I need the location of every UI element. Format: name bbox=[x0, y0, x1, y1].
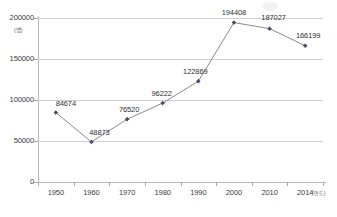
data-series bbox=[0, 0, 337, 217]
series-line bbox=[56, 23, 305, 142]
data-point-marker bbox=[196, 79, 201, 84]
data-point-label: 48873 bbox=[89, 129, 109, 137]
data-point-marker bbox=[303, 43, 308, 48]
data-point-label: 122869 bbox=[183, 68, 207, 76]
data-point-label: 96222 bbox=[152, 90, 172, 98]
line-chart: (명) 050000100000150000200000 19501960197… bbox=[0, 0, 337, 217]
data-point-label: 166199 bbox=[296, 32, 320, 40]
data-point-label: 187027 bbox=[261, 14, 285, 22]
data-point-marker bbox=[232, 20, 237, 25]
data-point-label: 76520 bbox=[119, 106, 139, 114]
data-point-marker bbox=[160, 101, 165, 106]
data-point-marker bbox=[267, 26, 272, 31]
data-point-label: 84674 bbox=[56, 100, 76, 108]
data-point-marker bbox=[125, 117, 130, 122]
data-point-label: 194408 bbox=[222, 9, 246, 17]
